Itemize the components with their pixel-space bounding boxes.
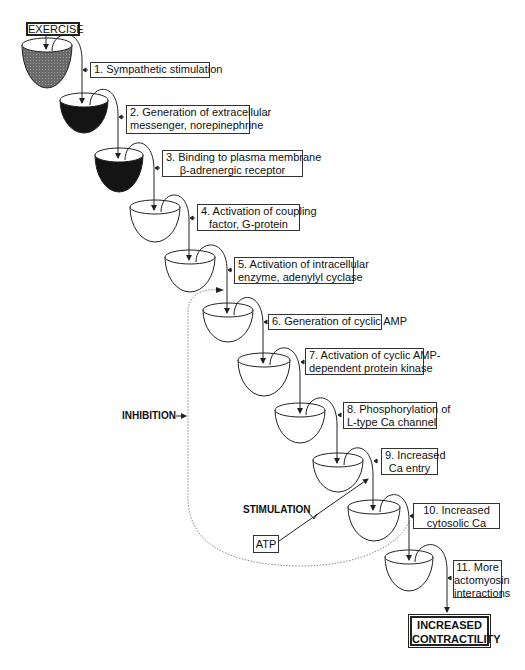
step-4-line1: 4. Activation of coupling: [201, 205, 296, 218]
step-11-line2: actomyosin: [454, 574, 501, 587]
step-6-label: 6. Generation of cyclic AMP: [268, 314, 382, 330]
increased-contractility-box: INCREASED CONTRACTILITY: [410, 616, 489, 646]
end-line2: CONTRACTILITY: [412, 632, 487, 646]
step-8-line1: 8. Phosphorylation of: [347, 403, 433, 416]
bowl-7: [238, 353, 290, 396]
step-5-label: 5. Activation of intracellular enzyme, a…: [234, 257, 354, 284]
step-4-label: 4. Activation of coupling factor, G-prot…: [197, 204, 300, 231]
step-9-label: 9. Increased Ca entry: [381, 448, 438, 475]
bowl-2: [60, 93, 108, 133]
step-10-line1: 10. Increased: [417, 504, 496, 517]
step-11-label: 11. More actomyosin interactions: [453, 560, 502, 598]
step-6-text: 6. Generation of cyclic AMP: [272, 315, 378, 328]
end-line1: INCREASED: [412, 618, 487, 632]
bowl-6: [203, 303, 253, 342]
bowl-4: [130, 200, 180, 242]
step-3-line1: 3. Binding to plasma membrane: [166, 151, 299, 164]
step-2-line2: messenger, norepinephrine: [130, 119, 246, 132]
step-7-label: 7. Activation of cyclic AMP- dependent p…: [305, 348, 424, 375]
bowl-5: [165, 250, 215, 292]
bowl-10: [348, 500, 400, 541]
step-3-label: 3. Binding to plasma membrane β-adrenerg…: [162, 150, 303, 177]
step-3-line2: β-adrenergic receptor: [166, 164, 299, 177]
step-2-label: 2. Generation of extracellular messenger…: [126, 105, 250, 134]
step-1-label: 1. Sympathetic stimulation: [90, 62, 210, 78]
bowl-3: [95, 148, 143, 192]
step-10-line2: cytosolic Ca: [417, 517, 496, 530]
exercise-label: EXERCISE: [28, 23, 84, 35]
step-5-line2: enzyme, adenylyl cyclase: [238, 271, 350, 284]
bowl-9: [313, 453, 363, 492]
bowl-1: [22, 38, 72, 88]
step-9-line1: 9. Increased: [385, 449, 434, 462]
step-5-line1: 5. Activation of intracellular: [238, 258, 350, 271]
step-2-line1: 2. Generation of extracellular: [130, 106, 246, 119]
cascade-diagram: [0, 0, 525, 670]
atp-label: ATP: [256, 538, 277, 550]
exercise-box: EXERCISE: [26, 22, 80, 36]
step-7-line1: 7. Activation of cyclic AMP-: [309, 349, 420, 362]
inhibition-label: INHIBITION: [122, 410, 176, 421]
atp-box: ATP: [253, 535, 279, 553]
step-1-text: 1. Sympathetic stimulation: [94, 63, 206, 76]
step-10-label: 10. Increased cytosolic Ca: [413, 503, 500, 529]
step-11-line1: 11. More: [454, 561, 501, 574]
step-8-label: 8. Phosphorylation of L-type Ca channel: [343, 402, 437, 429]
step-9-line2: Ca entry: [385, 462, 434, 475]
stimulation-label: STIMULATION: [243, 504, 311, 515]
step-4-line2: factor, G-protein: [201, 218, 296, 231]
step-7-line2: dependent protein kinase: [309, 362, 420, 375]
step-11-line3: interactions: [454, 587, 501, 600]
step-8-line2: L-type Ca channel: [347, 416, 433, 429]
